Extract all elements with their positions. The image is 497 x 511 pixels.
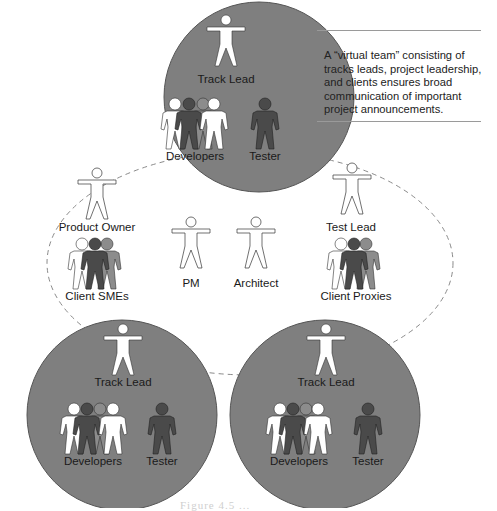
track-lead-label: Track Lead <box>197 73 254 85</box>
architect-label: Architect <box>234 277 280 289</box>
callout-box: A “virtual team” consisting of tracks le… <box>317 30 481 122</box>
architect-icon <box>237 217 275 268</box>
tester-label: Tester <box>352 455 383 467</box>
track-lead-label: Track Lead <box>94 376 151 388</box>
pm-label: PM <box>182 277 199 289</box>
product-owner-label: Product Owner <box>59 221 136 233</box>
callout-text: A “virtual team” consisting of tracks le… <box>324 49 484 117</box>
figure-caption: Figure 4.5 ... <box>180 499 250 511</box>
member-client-smes: Client SMEs <box>65 238 129 302</box>
developers-label: Developers <box>64 455 122 467</box>
developers-label: Developers <box>166 150 224 162</box>
tester-label: Tester <box>249 150 280 162</box>
member-pm: PM <box>172 217 210 289</box>
test-lead-label: Test Lead <box>326 221 376 233</box>
client-proxies-group-icon <box>327 238 380 289</box>
team-circle-bottom-left: Track Lead Developers Tester <box>27 320 217 508</box>
client-proxies-label: Client Proxies <box>321 290 392 302</box>
pm-icon <box>172 217 210 268</box>
developers-group-icon <box>161 98 228 149</box>
developers-label: Developers <box>270 455 328 467</box>
member-test-lead: Test Lead <box>326 163 376 233</box>
member-client-proxies: Client Proxies <box>321 238 392 302</box>
member-architect: Architect <box>234 217 280 289</box>
product-owner-icon <box>78 168 116 219</box>
developers-group-icon <box>266 403 332 454</box>
tester-label: Tester <box>146 455 177 467</box>
client-smes-label: Client SMEs <box>65 290 129 302</box>
member-product-owner: Product Owner <box>59 168 136 233</box>
team-circle-bottom-right: Track Lead Developers Tester <box>230 320 420 508</box>
track-lead-label: Track Lead <box>297 376 354 388</box>
client-smes-group-icon <box>68 238 121 289</box>
